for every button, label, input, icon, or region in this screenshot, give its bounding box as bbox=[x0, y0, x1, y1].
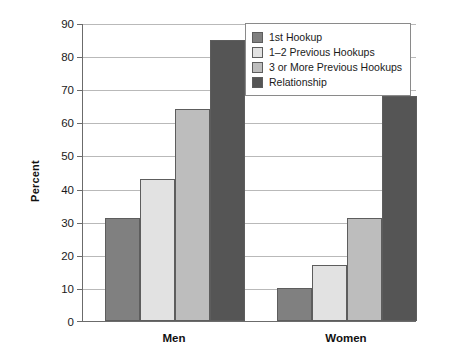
y-axis-tick bbox=[77, 123, 83, 124]
y-axis-label: 60 bbox=[34, 116, 74, 130]
bar bbox=[382, 96, 417, 321]
y-axis-label: 30 bbox=[34, 216, 74, 230]
bar bbox=[175, 109, 210, 321]
y-axis-label: 90 bbox=[34, 17, 74, 31]
y-axis-label: 50 bbox=[34, 149, 74, 163]
legend-label: 1–2 Previous Hookups bbox=[269, 47, 375, 58]
y-axis-tick bbox=[77, 57, 83, 58]
legend-item[interactable]: 1–2 Previous Hookups bbox=[252, 45, 402, 59]
y-axis-label: 70 bbox=[34, 83, 74, 97]
gridline bbox=[83, 190, 416, 191]
legend-swatch-icon bbox=[252, 47, 263, 58]
y-axis-tick bbox=[77, 90, 83, 91]
bar bbox=[105, 218, 140, 321]
y-axis-label: 20 bbox=[34, 249, 74, 263]
y-axis-label: 40 bbox=[34, 183, 74, 197]
y-axis-tick bbox=[77, 223, 83, 224]
y-axis-tick bbox=[77, 24, 83, 25]
legend-label: 3 or More Previous Hookups bbox=[269, 62, 402, 73]
bar bbox=[140, 179, 175, 321]
gridline bbox=[83, 321, 416, 322]
bar bbox=[277, 288, 312, 321]
y-axis-tick bbox=[77, 321, 83, 322]
bar bbox=[312, 265, 347, 321]
legend-swatch-icon bbox=[252, 32, 263, 43]
y-axis-tick bbox=[77, 289, 83, 290]
y-axis-tick bbox=[77, 190, 83, 191]
gridline bbox=[83, 156, 416, 157]
legend-label: Relationship bbox=[269, 77, 327, 88]
y-axis-label: 80 bbox=[34, 50, 74, 64]
legend-item[interactable]: 1st Hookup bbox=[252, 30, 402, 44]
bar-chart: Percent 0102030405060708090 MenWomen 1st… bbox=[0, 0, 463, 361]
legend-item[interactable]: Relationship bbox=[252, 75, 402, 89]
y-axis-tick bbox=[77, 256, 83, 257]
legend: 1st Hookup1–2 Previous Hookups3 or More … bbox=[245, 23, 411, 96]
x-axis-label-men: Men bbox=[114, 332, 234, 344]
x-axis-label-women: Women bbox=[286, 332, 406, 344]
bar bbox=[347, 218, 382, 321]
y-axis-label: 0 bbox=[34, 315, 74, 329]
legend-swatch-icon bbox=[252, 77, 263, 88]
gridline bbox=[83, 123, 416, 124]
y-axis-label: 10 bbox=[34, 282, 74, 296]
legend-label: 1st Hookup bbox=[269, 32, 322, 43]
bar bbox=[210, 40, 245, 321]
legend-swatch-icon bbox=[252, 62, 263, 73]
y-axis-tick bbox=[77, 156, 83, 157]
legend-item[interactable]: 3 or More Previous Hookups bbox=[252, 60, 402, 74]
